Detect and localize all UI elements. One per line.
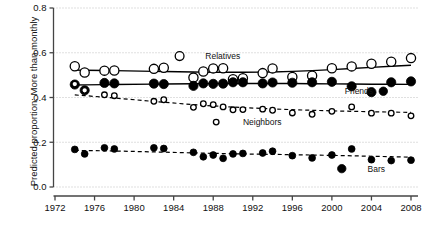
data-point: [70, 62, 79, 71]
data-point: [72, 81, 78, 87]
x-tick-label: 1984: [163, 202, 184, 213]
data-point: [349, 104, 355, 110]
data-point: [268, 64, 277, 73]
data-point: [189, 81, 198, 90]
line-chart-canvas: 0.00.20.40.60.81972197619801984198819921…: [0, 0, 425, 227]
data-point: [80, 68, 89, 77]
data-point: [110, 79, 119, 88]
chart-figure: Predicted proportion: More than monthly …: [0, 0, 425, 227]
data-point: [258, 69, 267, 78]
series-label-neighbors: Neighbors: [243, 117, 282, 127]
data-point: [228, 78, 237, 87]
data-point: [151, 99, 157, 105]
data-point: [200, 153, 207, 160]
series-line: [75, 65, 411, 72]
data-point: [260, 106, 266, 112]
data-point: [209, 64, 218, 73]
data-point: [269, 148, 276, 155]
data-point: [159, 63, 168, 72]
data-point: [288, 78, 297, 87]
data-point: [240, 107, 246, 113]
data-point: [160, 145, 167, 152]
data-point: [190, 149, 197, 156]
data-point: [219, 64, 228, 73]
legend-marker-relatives: [175, 52, 184, 61]
data-point: [238, 78, 247, 87]
x-tick-label: 1996: [282, 202, 303, 213]
data-point: [309, 111, 315, 117]
data-point: [210, 102, 216, 108]
y-tick-label: 0.2: [33, 137, 46, 148]
data-point: [189, 73, 198, 82]
data-point: [268, 78, 277, 87]
data-point: [100, 78, 109, 87]
data-point: [100, 66, 109, 75]
data-point: [159, 79, 168, 88]
data-point: [71, 146, 78, 153]
data-point: [161, 97, 167, 103]
y-tick-label: 0.0: [33, 181, 46, 192]
legend-marker-bars: [338, 164, 346, 172]
data-point: [308, 78, 317, 87]
series-label-relatives: Relatives: [205, 51, 240, 61]
data-point: [290, 110, 296, 116]
y-tick-label: 0.4: [33, 92, 46, 103]
data-point: [201, 101, 207, 107]
data-point: [348, 146, 355, 153]
x-tick-label: 1992: [242, 202, 263, 213]
data-point: [220, 155, 227, 162]
data-point: [149, 64, 158, 73]
data-point: [150, 144, 157, 151]
series-label-friends: Friends: [345, 86, 373, 96]
x-tick-label: 2000: [321, 202, 342, 213]
data-point: [406, 54, 415, 63]
legend-marker-neighbors: [213, 119, 219, 125]
data-point: [259, 150, 266, 157]
series-bars: [71, 144, 414, 164]
data-point: [309, 155, 316, 162]
data-point: [209, 79, 218, 88]
data-point: [270, 107, 276, 113]
series-label-bars: Bars: [367, 164, 384, 174]
data-point: [219, 79, 228, 88]
data-point: [328, 152, 335, 159]
x-tick-label: 2008: [400, 202, 421, 213]
data-point: [388, 157, 395, 164]
data-point: [347, 62, 356, 71]
data-point: [102, 92, 108, 98]
data-point: [387, 78, 396, 87]
data-point: [81, 150, 88, 157]
x-tick-label: 1980: [124, 202, 145, 213]
data-point: [199, 79, 208, 88]
data-point: [230, 150, 237, 157]
data-point: [369, 110, 375, 116]
data-point: [408, 157, 415, 164]
data-point: [329, 109, 335, 115]
data-point: [368, 156, 375, 163]
y-tick-label: 0.8: [33, 2, 46, 13]
data-point: [220, 104, 226, 110]
data-point: [111, 146, 118, 153]
data-point: [258, 79, 267, 88]
data-point: [82, 88, 88, 94]
data-point: [289, 152, 296, 159]
x-tick-label: 1976: [84, 202, 105, 213]
data-point: [199, 67, 208, 76]
data-point: [408, 113, 414, 119]
data-point: [327, 64, 336, 73]
data-point: [406, 77, 415, 86]
data-point: [112, 93, 118, 99]
data-point: [239, 150, 246, 157]
data-point: [149, 79, 158, 88]
y-tick-label: 0.6: [33, 47, 46, 58]
x-tick-label: 2004: [361, 202, 382, 213]
data-point: [191, 105, 197, 111]
data-point: [210, 152, 217, 159]
legend-marker-friends: [379, 87, 387, 95]
data-point: [230, 107, 236, 113]
x-tick-label: 1972: [44, 202, 65, 213]
x-tick-label: 1988: [203, 202, 224, 213]
data-point: [327, 77, 336, 86]
data-point: [388, 110, 394, 116]
data-point: [110, 66, 119, 75]
